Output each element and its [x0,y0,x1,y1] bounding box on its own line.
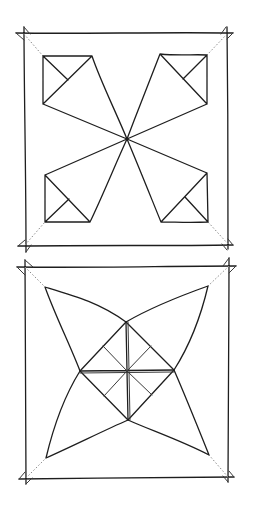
dotted-diagonal-bl-2 [26,458,46,478]
dotted-diagonal-tr [207,34,227,55]
diagram-canvas [0,0,256,506]
kite-top-right [127,54,207,139]
dotted-diagonal-bl [25,222,45,245]
kite-bottom-left [45,139,127,222]
crease-pattern-top [16,27,233,252]
center-point-top [126,138,128,140]
dotted-diagonal-tr-2 [208,266,229,286]
crease-pattern-bottom [17,258,236,484]
crease-pattern-drawing [0,0,256,506]
kite-top-left [43,56,127,139]
kite-bottom-right [127,139,208,222]
dotted-diagonal-tl-2 [25,267,45,287]
dotted-diagonal-br-2 [209,455,228,477]
dotted-diagonal-tl [24,34,43,56]
dotted-diagonal-br [208,222,228,244]
